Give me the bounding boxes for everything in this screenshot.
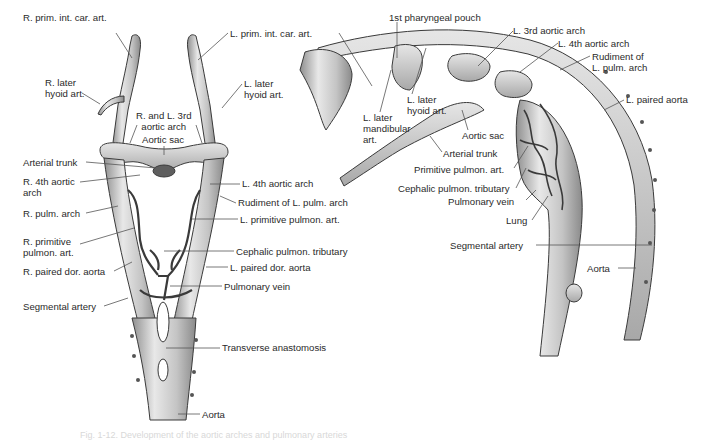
label-segmental-artery-right: Segmental artery [450, 240, 523, 251]
label-rudiment-l-pulm-arch-left: Rudiment of L. pulm. arch [238, 197, 348, 208]
label-l-primitive-pulmon-art: L. primitive pulmon. art. [240, 214, 340, 225]
label-l-prim-int-car-art: L. prim. int. car. art. [230, 28, 312, 39]
first-pharyngeal-pouch-block [392, 44, 422, 90]
fourth-arch-block [495, 71, 532, 98]
anastomosis-gap-2 [158, 359, 168, 381]
arterial-trunk-lumen [153, 165, 175, 177]
label-cephalic-pulmon-tributary-left: Cephalic pulmon. tributary [236, 246, 347, 257]
label-l-4th-aortic-arch: L. 4th aortic arch [242, 178, 313, 189]
label-l-3rd-aortic-arch: L. 3rd aortic arch [513, 25, 585, 36]
label-pulmonary-vein-right: Pulmonary vein [448, 196, 514, 207]
figure-caption: Fig. 1-12. Development of the aortic arc… [80, 430, 347, 440]
label-pulmonary-vein-left: Pulmonary vein [224, 281, 290, 292]
label-l-4th-aortic-arch-right: L. 4th aortic arch [558, 38, 629, 49]
r-internal-carotid-vessel [112, 35, 141, 150]
label-l-paired-aorta: L. paired aorta [626, 94, 688, 105]
label-r-and-l-3rd-aortic-arch: R. and L. 3rd aortic arch [136, 110, 191, 132]
label-lung: Lung [506, 215, 527, 226]
label-l-later-mandibular-art: L. later mandibular art. [363, 112, 410, 145]
label-aorta-right: Aorta [587, 263, 610, 274]
label-r-prim-int-car-art: R. prim. int. car. art. [23, 12, 107, 23]
label-aorta-left: Aorta [202, 409, 225, 420]
label-cephalic-pulmon-tributary-right: Cephalic pulmon. tributary [398, 183, 509, 194]
mandibular-arch-block [300, 49, 352, 130]
label-rudiment-l-pulm-arch-right: Rudiment of L. pulm. arch [592, 51, 647, 73]
label-transverse-anastomosis: Transverse anastomosis [222, 342, 326, 353]
label-aortic-sac-left: Aortic sac [142, 134, 184, 145]
label-l-later-hyoid-art-right: L. later hyoid art. [407, 94, 446, 116]
anastomosis-gap-1 [157, 302, 169, 342]
r-dorsal-aorta [104, 158, 158, 330]
label-l-paired-dor-aorta: L. paired dor. aorta [230, 262, 311, 273]
label-r-later-hyoid-art: R. later hyoid art. [45, 77, 84, 99]
third-arch-block [448, 54, 490, 82]
left-diagram [98, 35, 228, 420]
label-segmental-artery-left: Segmental artery [23, 301, 96, 312]
label-primitive-pulmon-art: Primitive pulmon. art. [414, 164, 504, 175]
label-r-paired-dor-aorta: R. paired dor. aorta [23, 266, 105, 277]
lung-bud [516, 100, 582, 356]
label-arterial-trunk-right: Arterial trunk [443, 148, 497, 159]
lung-nodule [566, 284, 582, 302]
label-arterial-trunk-left: Arterial trunk [23, 157, 77, 168]
label-l-later-hyoid-art-left: L. later hyoid art. [244, 78, 283, 100]
label-r-4th-aortic-arch: R. 4th aortic arch [23, 176, 75, 198]
label-r-pulm-arch: R. pulm. arch [23, 208, 80, 219]
l-internal-carotid-vessel [187, 35, 216, 150]
label-r-primitive-pulmon-art: R. primitive pulmon. art. [23, 236, 74, 258]
label-aortic-sac-right: Aortic sac [462, 130, 504, 141]
label-first-pharyngeal-pouch: 1st pharyngeal pouch [389, 12, 481, 23]
